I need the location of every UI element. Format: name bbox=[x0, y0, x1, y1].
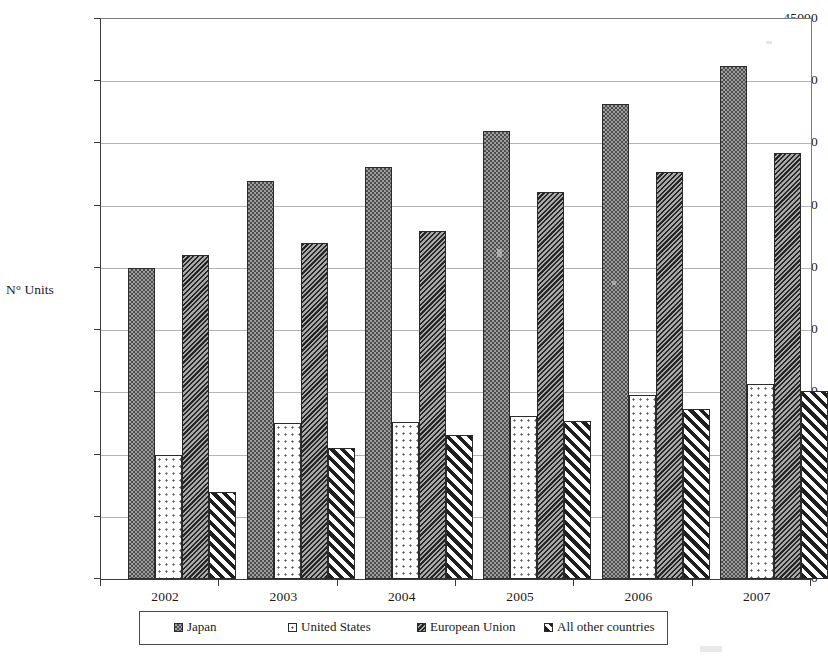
x-axis-tick-label: 2002 bbox=[105, 589, 225, 604]
x-axis-tick-mark bbox=[573, 578, 574, 586]
scan-artifact bbox=[497, 249, 502, 257]
x-axis-tick-label: 2006 bbox=[579, 589, 699, 604]
bar bbox=[747, 384, 774, 579]
legend-entry-united-states: United States bbox=[288, 620, 371, 634]
x-axis-tick-label: 2003 bbox=[224, 589, 344, 604]
bar bbox=[510, 416, 537, 579]
legend-label: European Union bbox=[430, 620, 516, 634]
bar bbox=[656, 172, 683, 579]
scan-artifact bbox=[612, 281, 616, 285]
x-axis-tick-label: 2004 bbox=[342, 589, 462, 604]
bar bbox=[301, 243, 328, 579]
bar bbox=[629, 395, 656, 579]
legend-swatch-icon bbox=[288, 623, 297, 632]
y-axis-title: N° Units bbox=[6, 283, 54, 297]
bar bbox=[365, 167, 392, 579]
legend-swatch-icon bbox=[544, 623, 553, 632]
legend-swatch-icon bbox=[417, 623, 426, 632]
legend-entry-all-other-countries: All other countries bbox=[544, 620, 654, 634]
legend-entry-japan: Japan bbox=[174, 620, 217, 634]
bar bbox=[446, 435, 473, 579]
legend-entry-european-union: European Union bbox=[417, 620, 516, 634]
bar bbox=[564, 421, 591, 579]
bar bbox=[774, 153, 801, 579]
bar bbox=[328, 448, 355, 579]
bar bbox=[720, 66, 747, 579]
x-axis-tick-mark bbox=[810, 578, 811, 586]
x-axis-tick-label: 2005 bbox=[460, 589, 580, 604]
bar bbox=[683, 409, 710, 579]
bar bbox=[182, 255, 209, 579]
chart-legend: JapanUnited StatesEuropean UnionAll othe… bbox=[139, 611, 668, 645]
gridline bbox=[101, 81, 811, 82]
x-axis-tick-mark bbox=[337, 578, 338, 586]
bar bbox=[274, 423, 301, 579]
bar bbox=[128, 268, 155, 579]
scan-artifact bbox=[766, 41, 772, 44]
gridline bbox=[101, 143, 811, 144]
bar bbox=[801, 391, 828, 579]
legend-label: All other countries bbox=[557, 620, 654, 634]
bar bbox=[392, 422, 419, 579]
legend-label: Japan bbox=[187, 620, 217, 634]
legend-label: United States bbox=[301, 620, 371, 634]
plot-area bbox=[100, 18, 812, 580]
bar bbox=[419, 231, 446, 579]
x-axis-tick-mark bbox=[218, 578, 219, 586]
x-axis-tick-mark bbox=[692, 578, 693, 586]
gridline bbox=[101, 206, 811, 207]
bar bbox=[155, 455, 182, 579]
x-axis-tick-label: 2007 bbox=[697, 589, 817, 604]
x-axis-tick-mark bbox=[100, 578, 101, 586]
bar bbox=[247, 181, 274, 579]
bar bbox=[537, 192, 564, 579]
legend-swatch-icon bbox=[174, 623, 183, 632]
bar bbox=[483, 131, 510, 579]
scan-artifact bbox=[700, 646, 722, 652]
x-axis-tick-mark bbox=[455, 578, 456, 586]
bar bbox=[209, 492, 236, 579]
bar bbox=[602, 104, 629, 579]
